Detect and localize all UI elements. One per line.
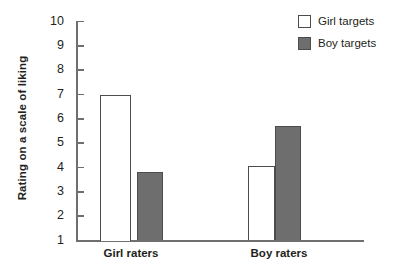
- y-axis-tick-label: 5: [24, 136, 64, 149]
- y-axis-tick-label: 1: [24, 234, 64, 247]
- y-axis-tick-mark: [77, 21, 84, 22]
- y-axis-tick-mark: [77, 118, 84, 119]
- y-axis-tick-label: 6: [24, 112, 64, 125]
- x-axis-label-boy-raters: Boy raters: [224, 247, 334, 259]
- y-axis-tick-label: 7: [24, 88, 64, 101]
- y-axis-tick-mark: [77, 240, 84, 241]
- y-axis-tick-mark: [77, 45, 84, 46]
- y-axis-tick-label: 9: [24, 39, 64, 52]
- legend-label: Girl targets: [318, 15, 374, 27]
- legend-swatch-filled-icon: [298, 37, 311, 50]
- x-axis-label-girl-raters: Girl raters: [76, 247, 186, 259]
- y-axis-tick-label: 10: [24, 15, 64, 28]
- y-axis-line: [76, 21, 78, 241]
- y-axis-tick-label: 4: [24, 161, 64, 174]
- legend-swatch-open-icon: [298, 15, 311, 28]
- legend-item-boy-targets: Boy targets: [298, 34, 376, 52]
- x-axis-line: [76, 240, 364, 242]
- y-axis-tick-label: 8: [24, 63, 64, 76]
- y-axis-title: Rating on a scale of liking: [16, 28, 28, 228]
- y-axis-tick-mark: [77, 142, 84, 143]
- bar-girl-raters-boy-targets: [137, 172, 163, 240]
- bar-chart: Rating on a scale of liking 10987654321 …: [0, 0, 394, 278]
- y-axis-tick-mark: [77, 167, 84, 168]
- y-axis-tick-label: 3: [24, 185, 64, 198]
- bar-boy-raters-girl-targets: [248, 166, 275, 240]
- legend-item-girl-targets: Girl targets: [298, 12, 376, 30]
- legend: Girl targets Boy targets: [298, 12, 376, 56]
- bar-girl-raters-girl-targets: [100, 95, 131, 241]
- y-axis-tick-mark: [77, 191, 84, 192]
- y-axis-tick-mark: [77, 69, 84, 70]
- y-axis-tick-mark: [77, 215, 84, 216]
- legend-label: Boy targets: [318, 37, 376, 49]
- y-axis-tick-mark: [77, 94, 84, 95]
- y-axis-tick-label: 2: [24, 209, 64, 222]
- bar-boy-raters-boy-targets: [275, 126, 301, 240]
